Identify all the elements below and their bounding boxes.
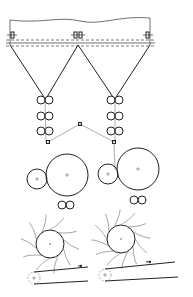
conveyor-right [99, 261, 178, 281]
spiked-roller-left [21, 215, 79, 274]
bobbin-right [143, 32, 153, 38]
conveyor-left [28, 265, 88, 284]
drum-right [98, 148, 159, 204]
drafting-rollers-right [107, 96, 123, 142]
drafting-rollers-left [37, 96, 53, 142]
drum-left [27, 154, 88, 209]
spiked-roller-right [91, 209, 150, 268]
guide-rollers [47, 123, 116, 171]
machine-diagram [0, 0, 193, 297]
bobbin-center [71, 32, 85, 38]
yarn-paths [10, 45, 150, 97]
bobbin-left [7, 32, 17, 38]
